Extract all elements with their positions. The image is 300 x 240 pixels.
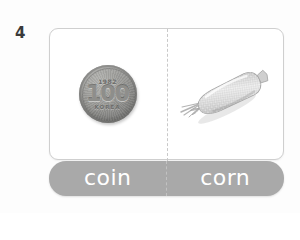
card-pane-right	[168, 29, 285, 161]
coin-face: 1982 100 KOREA	[85, 71, 131, 117]
coin-legend-text: KOREA	[95, 104, 121, 110]
corn-illustration	[177, 63, 277, 127]
coin-denomination-text: 100	[86, 83, 129, 105]
word-label-coin-text: coin	[84, 167, 132, 189]
coin-body: 1982 100 KOREA	[79, 65, 137, 123]
word-label-corn[interactable]: corn	[167, 161, 285, 196]
word-label-bar: coin corn	[49, 161, 284, 196]
card-dashed-divider	[167, 29, 168, 161]
picture-card: 1982 100 KOREA	[49, 28, 284, 160]
word-label-coin[interactable]: coin	[49, 161, 167, 196]
corn-image	[177, 63, 277, 127]
label-bar-dashed-divider	[166, 161, 167, 196]
card-pane-left: 1982 100 KOREA	[50, 29, 167, 161]
word-label-corn-text: corn	[200, 167, 250, 189]
coin-image: 1982 100 KOREA	[79, 65, 139, 125]
corn-cob	[185, 65, 272, 123]
item-number: 4	[15, 26, 25, 41]
